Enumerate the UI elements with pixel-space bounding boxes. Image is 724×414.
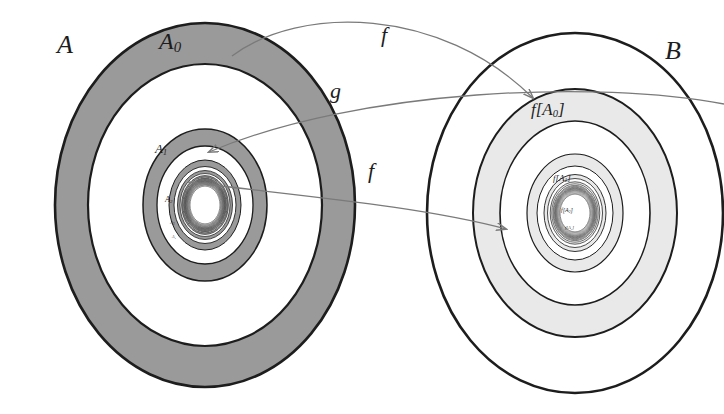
- label-f-a1-open: f[A: [553, 173, 565, 183]
- label-a2-sub: 2: [170, 199, 172, 204]
- label-a1-base: A: [155, 141, 163, 156]
- label-a4: A4: [172, 234, 176, 240]
- label-arrow-g-middle: g: [330, 78, 341, 104]
- label-f-a2-close: ]: [571, 207, 573, 213]
- ellipse-a-core: [190, 186, 220, 224]
- label-f-a0: f[A0]: [531, 100, 565, 120]
- label-a3-sub: 3: [173, 222, 175, 226]
- label-f-a0-close: ]: [558, 100, 565, 119]
- label-a1: A1: [155, 141, 167, 157]
- label-f-a3: f[A3]: [565, 225, 574, 231]
- label-a0-sub: 0: [174, 39, 181, 55]
- set-mapping-diagram: [0, 0, 724, 414]
- label-arrow-f-bottom: f: [368, 158, 374, 184]
- label-a3: A3: [170, 220, 175, 226]
- label-a0: A0: [159, 28, 181, 56]
- label-f-a2: f[A2]: [561, 207, 573, 214]
- label-set-b: B: [665, 36, 681, 66]
- label-set-a: A: [57, 30, 73, 60]
- label-f-a1: f[A1]: [553, 173, 571, 183]
- label-a4-sub: 4: [174, 237, 175, 240]
- label-a1-sub: 1: [163, 148, 167, 157]
- set-b-ellipses: [427, 33, 723, 393]
- label-f-a0-open: f[A: [531, 100, 553, 119]
- label-f-a3-close: ]: [572, 225, 574, 230]
- label-f-a1-close: ]: [567, 173, 571, 183]
- label-f-a2-open: f[A: [561, 207, 569, 213]
- set-a-ellipses: [55, 23, 355, 387]
- label-a0-base: A: [159, 28, 174, 54]
- label-a2: A2: [165, 195, 172, 204]
- label-arrow-f-top: f: [381, 22, 387, 48]
